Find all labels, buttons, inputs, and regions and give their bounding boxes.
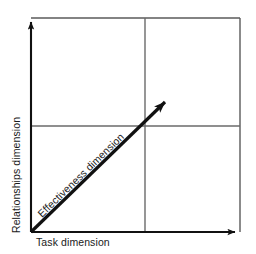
quadrant-diagram: Task dimension Relationships dimension E… — [0, 0, 256, 254]
diagram-canvas: Task dimension Relationships dimension E… — [0, 0, 256, 254]
diagonal-vector-label: Effectiveness dimension — [35, 130, 126, 219]
x-axis-label: Task dimension — [36, 236, 110, 248]
y-axis-label: Relationships dimension — [10, 117, 22, 233]
